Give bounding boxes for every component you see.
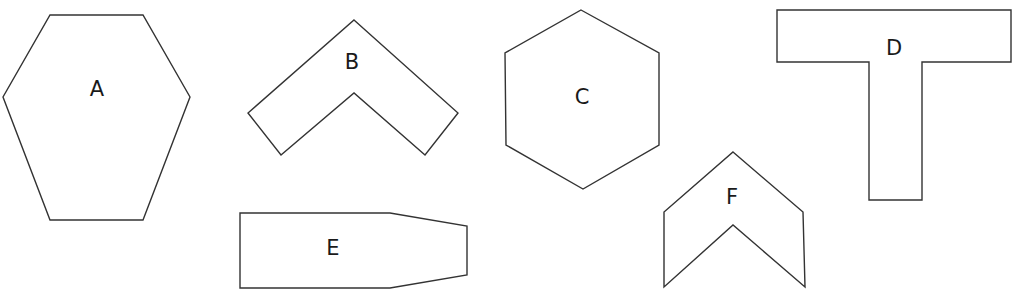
shape-e: E (240, 213, 467, 288)
label-b: B (345, 50, 359, 74)
label-d: D (886, 36, 902, 60)
shape-d: D (777, 10, 1011, 200)
shape-f: F (664, 152, 805, 287)
shape-b: B (248, 20, 458, 155)
chevron-f (664, 152, 805, 287)
label-f: F (726, 185, 738, 209)
label-e: E (326, 236, 339, 260)
shapes-diagram: A B C D E F (0, 0, 1013, 289)
shape-c: C (505, 10, 659, 189)
hexagon-a (3, 15, 190, 220)
label-a: A (90, 77, 105, 101)
label-c: C (575, 85, 590, 109)
chevron-b (248, 20, 458, 155)
shape-a: A (3, 15, 190, 220)
tapered-rectangle-e (240, 213, 467, 288)
